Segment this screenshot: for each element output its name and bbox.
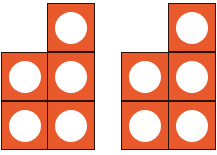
ten-frame-cell [121,101,169,150]
counter-dot-icon [55,110,87,142]
counter-dot-icon [129,61,161,93]
counter-dot-icon [176,12,208,44]
counter-dot-icon [9,110,41,142]
ten-frame-cell [121,52,169,101]
ten-frame-cell [1,101,49,150]
counter-dot-icon [55,12,87,44]
counter-dot-icon [129,110,161,142]
ten-frame-cell [47,3,95,52]
counter-dot-icon [55,61,87,93]
ten-frame-cell [168,3,216,52]
ten-frame-cell [168,101,216,150]
counter-dot-icon [176,110,208,142]
ten-frame-cell [47,101,95,150]
counter-dot-icon [176,61,208,93]
counter-dot-icon [9,61,41,93]
ten-frame-cell [47,52,95,101]
ten-frame-cell [168,52,216,101]
ten-frame-cell [1,52,49,101]
